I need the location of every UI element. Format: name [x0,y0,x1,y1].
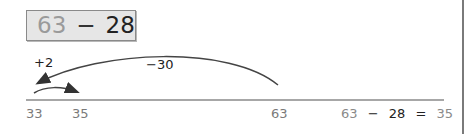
equation-equals: = [415,106,426,121]
jump-arrow-plus-2 [34,88,77,93]
equation-result: 35 [436,106,453,121]
tick-label-35: 35 [72,106,89,121]
equation-b: 28 [389,106,406,121]
tick-label-33: 33 [26,106,43,121]
tick-label-63: 63 [271,106,288,121]
jump-label-minus-30: −30 [146,57,173,72]
jump-label-plus-2: +2 [34,55,53,70]
equation-op: − [368,106,379,121]
right-border [462,0,464,134]
result-equation: 63 − 28 = 35 [341,106,459,121]
equation-a: 63 [341,106,358,121]
